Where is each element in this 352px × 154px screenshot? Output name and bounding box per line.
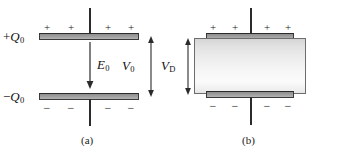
charge-subscript: 0 <box>20 95 24 105</box>
plus-sign: + <box>208 22 218 33</box>
voltage-measure-arrow-vd <box>182 38 194 95</box>
top-lead-wire-a <box>89 8 91 36</box>
voltage-subscript: D <box>169 64 175 74</box>
top-lead-wire-b <box>250 8 252 36</box>
plus-sign: + <box>230 22 240 33</box>
panel-b-caption: (b) <box>242 134 255 146</box>
panel-b: + + + + VD − − − − (b) <box>176 0 352 154</box>
plus-sign: + <box>126 22 136 33</box>
voltage-symbol: V <box>122 58 130 73</box>
voltage-symbol: V <box>161 58 169 73</box>
panel-a: + + + + +Q0 E0 V0 −Q0 <box>0 0 176 154</box>
minus-sign: − <box>126 102 136 114</box>
bottom-plate-charge-label-a: −Q0 <box>3 90 24 103</box>
plus-sign: + <box>262 22 272 33</box>
minus-sign: − <box>66 102 76 114</box>
bottom-lead-wire-a <box>89 99 91 126</box>
plus-sign: + <box>66 22 76 33</box>
field-subscript: 0 <box>105 63 109 73</box>
capacitor-dielectric-figure: + + + + +Q0 E0 V0 −Q0 <box>0 0 352 154</box>
voltage-label-v0: V0 <box>122 59 134 72</box>
voltage-subscript: 0 <box>130 64 134 74</box>
top-plate-charge-label-a: +Q0 <box>3 30 24 43</box>
bottom-lead-wire-b <box>250 97 252 125</box>
minus-sign: − <box>208 100 218 112</box>
panel-a-caption: (a) <box>81 134 93 146</box>
voltage-measure-arrow-v0 <box>145 36 157 97</box>
charge-symbol: Q <box>10 89 19 104</box>
charge-symbol: Q <box>10 29 19 44</box>
minus-sign: − <box>262 100 272 112</box>
field-symbol: E <box>97 57 105 72</box>
charge-subscript: 0 <box>20 35 24 45</box>
voltage-label-vd: VD <box>161 59 175 72</box>
minus-sign: − <box>230 100 240 112</box>
field-arrow-e0 <box>84 42 96 90</box>
plus-sign: + <box>103 22 113 33</box>
minus-sign: − <box>42 102 52 114</box>
field-label-e0: E0 <box>97 58 109 71</box>
plus-sign: + <box>283 22 293 33</box>
minus-sign: − <box>283 100 293 112</box>
top-plate-a <box>39 33 139 40</box>
dielectric-slab <box>194 38 306 94</box>
minus-sign: − <box>103 102 113 114</box>
plus-sign: + <box>42 22 52 33</box>
